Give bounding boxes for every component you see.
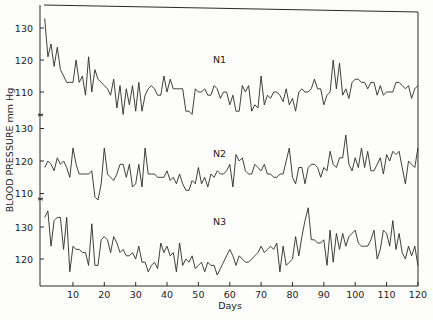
x-tick-label: 100 bbox=[346, 289, 364, 300]
y-tick-label: 130 bbox=[15, 23, 33, 34]
y-tick-label: 130 bbox=[15, 222, 33, 233]
y-tick-label: 120 bbox=[15, 156, 33, 167]
panel-n1: 130120110N1 bbox=[15, 18, 418, 116]
series-label-n1: N1 bbox=[213, 54, 226, 65]
series-label-n3: N3 bbox=[213, 216, 226, 227]
x-tick-label: 60 bbox=[224, 289, 236, 300]
series-label-n2: N2 bbox=[213, 148, 226, 159]
x-tick-label: 20 bbox=[98, 289, 110, 300]
x-axis-title: Days bbox=[218, 300, 242, 311]
panel-n2: 130120110N2 bbox=[15, 123, 418, 200]
blood-pressure-chart: 130120110N1130120110N2130120N3 102030405… bbox=[0, 0, 433, 320]
x-tick-label: 70 bbox=[255, 289, 267, 300]
x-tick-label: 80 bbox=[286, 289, 298, 300]
panel-n3: 130120N3 bbox=[15, 208, 418, 275]
y-axis-title: BLOOD PRESSURE mm Hg bbox=[4, 88, 15, 212]
x-tick-label: 50 bbox=[192, 289, 204, 300]
x-tick-label: 40 bbox=[161, 289, 173, 300]
x-tick-label: 120 bbox=[409, 289, 427, 300]
series-line-n3 bbox=[45, 208, 418, 275]
y-tick-label: 110 bbox=[15, 188, 33, 199]
y-tick-label: 120 bbox=[15, 254, 33, 265]
x-tick-label: 110 bbox=[377, 289, 395, 300]
x-tick-label: 90 bbox=[318, 289, 330, 300]
x-tick-label: 10 bbox=[67, 289, 79, 300]
y-tick-label: 120 bbox=[15, 55, 33, 66]
series-line-n1 bbox=[45, 18, 418, 114]
series-line-n2 bbox=[45, 135, 418, 200]
y-tick-label: 110 bbox=[15, 87, 33, 98]
y-tick-label: 130 bbox=[15, 123, 33, 134]
plot-frame bbox=[40, 5, 418, 286]
x-tick-label: 30 bbox=[130, 289, 142, 300]
